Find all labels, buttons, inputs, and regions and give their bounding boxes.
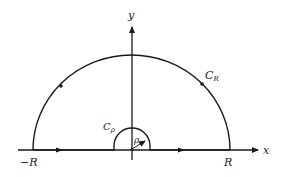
direction-marker-big-arc-left-icon [59,84,63,88]
big-arc-label-sub: R [212,75,219,83]
small-arc-label-sub: ρ [110,126,116,134]
direction-marker-big-arc-right-icon [200,82,204,86]
neg-R-label: −R [20,156,38,169]
y-axis-label: y [127,9,135,22]
direction-arrow-left-segment-icon [56,148,63,153]
contour-diagram: y x −R R CR Cρ ρ [0,0,285,177]
direction-arrow-right-segment-icon [178,148,185,153]
radius-label: ρ [133,135,140,145]
big-arc-label: CR [205,69,219,83]
small-arc-label: Cρ [103,121,116,134]
pos-R-label: R [223,156,232,169]
x-axis-label: x [263,144,270,157]
